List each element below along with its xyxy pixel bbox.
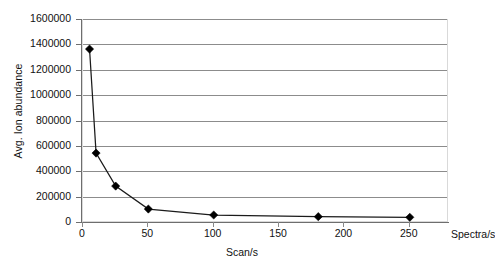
y-tick-label: 600000 — [36, 140, 71, 150]
x-tick-label: 0 — [79, 228, 85, 239]
y-tick-label: 1200000 — [30, 64, 71, 74]
x-axis-title: Scan/s — [0, 246, 484, 258]
y-axis-line — [81, 19, 82, 223]
y-tick-label: 400000 — [36, 165, 71, 175]
y-tick-mark — [76, 95, 81, 96]
x-axis-line — [81, 222, 449, 223]
y-tick-label: 0 — [65, 216, 71, 226]
y-tick-label: 1600000 — [30, 13, 71, 23]
y-tick-mark — [76, 146, 81, 147]
series-avg-ion-abundance — [83, 20, 449, 223]
x-tick-label: 100 — [204, 228, 222, 239]
y-tick-label: 1000000 — [30, 89, 71, 99]
y-tick-mark — [76, 197, 81, 198]
series-line — [90, 49, 410, 217]
x-tick-label: 200 — [335, 228, 353, 239]
data-point-marker — [210, 211, 218, 219]
y-tick-label: 1400000 — [30, 38, 71, 48]
y-tick-mark — [76, 19, 81, 20]
series-markers — [85, 45, 413, 221]
y-tick-label: 800000 — [36, 115, 71, 125]
x-axis-end-label: Spectra/s — [451, 228, 495, 240]
y-tick-mark — [76, 70, 81, 71]
x-tick-label: 50 — [142, 228, 154, 239]
y-tick-mark — [76, 121, 81, 122]
data-point-marker — [85, 45, 93, 53]
data-point-marker — [314, 213, 322, 221]
data-point-marker — [144, 205, 152, 213]
y-tick-mark — [76, 171, 81, 172]
x-tick-label: 250 — [400, 228, 418, 239]
x-tick-label: 150 — [269, 228, 287, 239]
y-tick-mark — [76, 222, 81, 223]
data-point-marker — [406, 213, 414, 221]
plot-area — [82, 19, 448, 222]
data-point-marker — [92, 149, 100, 157]
data-point-marker — [112, 182, 120, 190]
y-axis-title: Avg. Ion abundance — [12, 31, 24, 191]
y-tick-label: 200000 — [36, 191, 71, 201]
y-tick-mark — [76, 44, 81, 45]
